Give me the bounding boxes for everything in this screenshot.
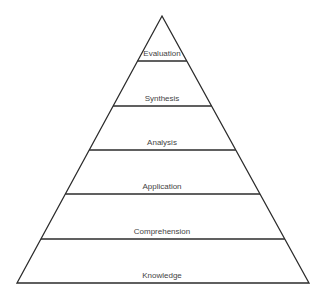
level-label-application: Application <box>142 183 181 191</box>
level-label-evaluation: Evaluation <box>143 50 180 58</box>
level-label-knowledge: Knowledge <box>142 272 182 280</box>
blooms-taxonomy-pyramid: Evaluation Synthesis Analysis Applicatio… <box>0 0 329 300</box>
level-label-synthesis: Synthesis <box>145 95 180 103</box>
level-label-analysis: Analysis <box>147 139 177 147</box>
pyramid-shape <box>0 0 329 300</box>
level-label-comprehension: Comprehension <box>134 228 190 236</box>
